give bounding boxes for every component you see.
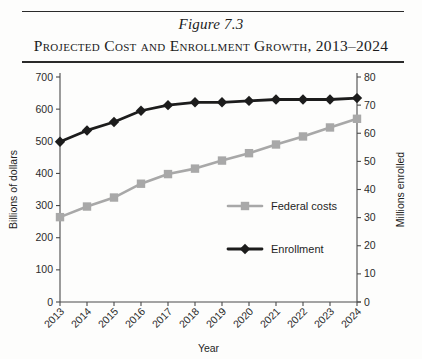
x-axis-tick-label: 2014 [68, 305, 93, 330]
x-axis-tick-label: 2020 [230, 305, 255, 330]
data-point-enrollment [136, 106, 146, 116]
y-axis-left-title: Billions of dollars [7, 150, 19, 229]
data-point-federal-costs [110, 193, 118, 201]
x-axis-tick-label: 2015 [95, 305, 120, 330]
data-point-enrollment [271, 94, 281, 104]
y-axis-right-tick-label: 0 [364, 296, 370, 308]
data-point-federal-costs [353, 115, 361, 123]
data-point-federal-costs [245, 149, 253, 157]
chart-plot: 0100200300400500600700010203040506070802… [0, 63, 422, 359]
legend-group: Federal costsEnrollment [228, 200, 338, 255]
y-axis-right-tick-label: 20 [364, 239, 376, 251]
y-axis-right-tick-label: 60 [364, 127, 376, 139]
y-axis-right-tick-label: 80 [364, 71, 376, 83]
legend-label-federal-costs: Federal costs [271, 200, 338, 212]
data-point-enrollment [190, 97, 200, 107]
x-axis-title: Year [198, 342, 220, 354]
y-axis-right-tick-label: 70 [364, 99, 376, 111]
legend-marker-symbol [241, 202, 249, 210]
y-axis-left-tick-label: 600 [35, 103, 53, 115]
data-point-federal-costs [137, 180, 145, 188]
y-axis-right-tick-label: 10 [364, 267, 376, 279]
y-axis-left-tick-label: 200 [35, 231, 53, 243]
data-point-federal-costs [56, 213, 64, 221]
data-point-federal-costs [191, 164, 199, 172]
x-axis-tick-label: 2022 [284, 305, 309, 330]
y-axis-right-title: Millions enrolled [394, 152, 406, 227]
data-point-enrollment [82, 125, 92, 135]
data-point-enrollment [298, 94, 308, 104]
data-point-enrollment [325, 94, 335, 104]
x-axis-tick-label: 2017 [149, 305, 174, 330]
y-axis-left-tick-label: 700 [35, 71, 53, 83]
data-point-enrollment [109, 117, 119, 127]
legend-marker-symbol [240, 244, 250, 254]
data-point-federal-costs [299, 132, 307, 140]
figure-number: Figure 7.3 [0, 16, 422, 33]
y-axis-left-tick-label: 0 [47, 296, 53, 308]
figure-title: Projected Cost and Enrollment Growth, 20… [0, 37, 422, 55]
legend-label-enrollment: Enrollment [271, 243, 324, 255]
x-axis-tick-label: 2016 [122, 305, 147, 330]
x-axis-tick-label: 2018 [176, 305, 201, 330]
data-point-federal-costs [164, 170, 172, 178]
data-point-federal-costs [218, 156, 226, 164]
x-axis-tick-label: 2023 [311, 305, 336, 330]
y-axis-left-tick-label: 400 [35, 167, 53, 179]
y-axis-left-tick-label: 100 [35, 263, 53, 275]
series-line-enrollment [60, 98, 357, 142]
x-axis-tick-label: 2024 [338, 305, 363, 330]
x-axis-tick-label: 2021 [257, 305, 282, 330]
data-point-federal-costs [272, 140, 280, 148]
data-point-enrollment [352, 93, 362, 103]
data-point-federal-costs [83, 202, 91, 210]
data-point-enrollment [217, 97, 227, 107]
y-axis-right-tick-label: 50 [364, 155, 376, 167]
y-axis-right-tick-label: 40 [364, 183, 376, 195]
data-point-enrollment [163, 100, 173, 110]
data-point-federal-costs [326, 123, 334, 131]
y-axis-left-tick-label: 500 [35, 135, 53, 147]
data-point-enrollment [55, 136, 65, 146]
x-axis-tick-label: 2013 [41, 305, 66, 330]
y-axis-left-tick-label: 300 [35, 199, 53, 211]
y-axis-right-tick-label: 30 [364, 211, 376, 223]
figure-container: Figure 7.3 Projected Cost and Enrollment… [0, 0, 422, 359]
data-point-enrollment [244, 96, 254, 106]
x-axis-tick-label: 2019 [203, 305, 228, 330]
title-rule-top [22, 11, 404, 12]
